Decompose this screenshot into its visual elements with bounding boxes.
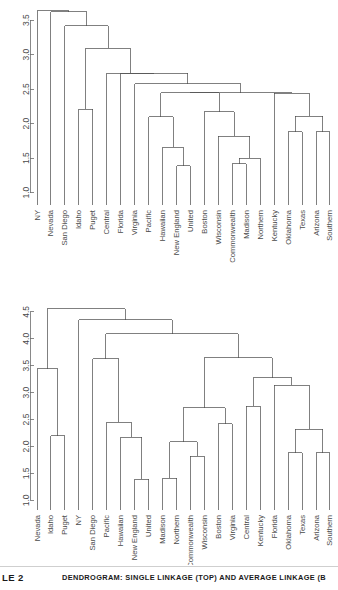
dendrogram-merge	[295, 116, 323, 132]
merge-link	[288, 132, 302, 205]
leaf-label: Boston	[214, 515, 223, 539]
leaf-label: Nevada	[33, 514, 42, 541]
dendrogram-merge	[135, 479, 149, 510]
dendrogram-merge	[93, 359, 119, 510]
dendrogram-merge	[86, 48, 131, 109]
dendrogram-panel-average-linkage: 1.01.52.02.53.03.54.04.5NevadaIdahoPuget…	[0, 285, 338, 565]
dendrogram-merge	[218, 424, 232, 510]
merge-link	[295, 116, 323, 132]
merge-link	[295, 429, 323, 453]
leaf-label: Texas	[298, 515, 307, 535]
leaf-label: Commonwealth	[228, 210, 237, 263]
dendrogram-svg-bottom: 1.01.52.02.53.03.54.04.5NevadaIdahoPuget…	[0, 285, 338, 565]
leaf-label: Florida	[270, 514, 279, 538]
dendrogram-merge	[295, 429, 323, 453]
dendrogram-merge	[163, 147, 184, 205]
leaf-label: Southern	[325, 210, 334, 241]
leaf-label: Hawaiian	[158, 210, 167, 241]
dendrogram-merge	[239, 158, 260, 205]
dendrogram-svg-top: 1.01.52.02.53.03.5NYNevadaSan DiegoIdaho…	[0, 0, 338, 285]
merge-link	[316, 453, 330, 510]
y-axis-tick-label: 2.5	[22, 413, 32, 425]
leaf-label: United	[186, 210, 195, 232]
y-axis-tick-label: 2.0	[22, 117, 32, 129]
dendrogram-panel-single-linkage: 1.01.52.02.53.03.5NYNevadaSan DiegoIdaho…	[0, 0, 338, 285]
merge-link	[107, 422, 131, 510]
merge-link	[204, 358, 272, 408]
merge-link	[86, 48, 131, 109]
y-axis-tick-label: 1.0	[22, 186, 32, 198]
dendrogram-merge	[161, 93, 219, 117]
merge-link	[253, 378, 291, 407]
merge-link	[183, 408, 225, 442]
leaf-label: Kentucky	[270, 210, 279, 241]
leaf-label: United	[144, 515, 153, 537]
y-axis-tick-label: 1.0	[22, 494, 32, 506]
dendrogram-merge	[65, 26, 108, 205]
leaf-label: Pacific	[144, 210, 153, 233]
leaf-label: Madison	[158, 515, 167, 544]
leaf-label: Boston	[200, 210, 209, 234]
merge-link	[177, 166, 191, 205]
leaf-label: Idaho	[46, 515, 55, 534]
merge-link	[79, 109, 93, 205]
dendrogram-merge	[232, 164, 246, 205]
dendrogram-merge	[121, 73, 188, 205]
dendrogram-merge	[274, 93, 309, 205]
merge-link	[37, 11, 69, 205]
dendrogram-merge	[135, 84, 241, 205]
caption-divider	[0, 566, 338, 567]
dendrogram-merge	[274, 385, 309, 510]
leaf-label: Oklahoma	[284, 209, 293, 244]
merge-link	[246, 406, 260, 510]
leaf-label: NY	[74, 515, 83, 526]
merge-link	[47, 309, 125, 369]
leaf-label: Northern	[256, 210, 265, 240]
dendrogram-figure: 1.01.52.02.53.03.5NYNevadaSan DiegoIdaho…	[0, 0, 338, 590]
y-axis-tick-label: 3.5	[22, 360, 32, 372]
merge-link	[190, 456, 204, 510]
y-axis-tick-label: 3.5	[22, 14, 32, 26]
merge-link	[51, 436, 65, 510]
merge-link	[106, 334, 239, 359]
y-axis-tick-label: 4.5	[22, 306, 32, 318]
dendrogram-merge	[51, 436, 65, 510]
leaf-label: Madison	[242, 210, 251, 239]
leaf-label: San Diego	[60, 210, 69, 245]
dendrogram-merge	[149, 117, 173, 205]
y-axis-tick-label: 4.0	[22, 333, 32, 345]
merge-link	[163, 147, 184, 205]
leaf-label: New England	[172, 210, 181, 255]
leaf-label: San Diego	[88, 515, 97, 550]
y-axis-tick-label: 2.5	[22, 83, 32, 95]
merge-link	[170, 442, 198, 479]
dendrogram-merge	[288, 132, 302, 205]
dendrogram-merge	[47, 309, 125, 369]
leaf-label: Puget	[88, 209, 97, 230]
dendrogram-merge	[79, 109, 93, 205]
dendrogram-merge	[107, 422, 131, 510]
dendrogram-merge	[107, 73, 154, 205]
dendrogram-merge	[190, 456, 204, 510]
merge-link	[204, 112, 234, 205]
y-axis-tick-label: 3.0	[22, 48, 32, 60]
dendrogram-merge	[106, 334, 239, 359]
leaf-label: Virginia	[130, 209, 139, 235]
merge-link	[121, 437, 142, 510]
leaf-label: Nevada	[46, 209, 55, 236]
dendrogram-merge	[316, 453, 330, 510]
leaf-label: Southern	[325, 515, 334, 546]
y-axis-tick-label: 1.5	[22, 467, 32, 479]
merge-link	[232, 164, 246, 205]
leaf-label: Oklahoma	[284, 514, 293, 549]
dendrogram-merge	[246, 406, 260, 510]
merge-link	[107, 73, 154, 205]
leaf-label: Pacific	[102, 515, 111, 538]
merge-link	[161, 93, 219, 117]
merge-link	[274, 93, 309, 205]
dendrogram-merge	[288, 453, 302, 510]
leaf-label: Central	[102, 210, 111, 235]
caption-text: DENDROGRAM: SINGLE LINKAGE (TOP) AND AVE…	[62, 573, 326, 582]
dendrogram-merge	[163, 478, 177, 510]
y-axis-tick-label: 3.0	[22, 386, 32, 398]
